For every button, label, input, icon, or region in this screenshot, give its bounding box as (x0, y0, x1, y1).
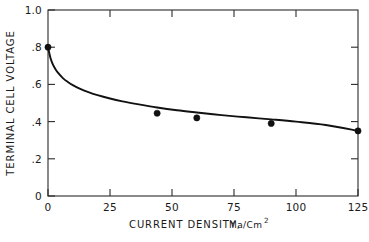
y-tick-label: .8 (32, 41, 42, 53)
x-axis-title: CURRENT DENSITY, Ma/Cm 2 (129, 216, 269, 230)
data-point (154, 110, 160, 116)
plot-frame (48, 10, 358, 196)
data-point (268, 120, 274, 126)
y-tick-label: .2 (32, 153, 42, 165)
x-tick-label: 125 (348, 201, 369, 213)
x-tick-label: 50 (165, 201, 179, 213)
data-point (194, 115, 200, 121)
x-axis-title-unit: Ma/Cm (229, 220, 262, 230)
x-axis-top-ticks (110, 10, 296, 17)
y-tick-label: .4 (32, 116, 43, 128)
y-tick-label: 1.0 (25, 4, 42, 16)
data-curve (48, 47, 358, 131)
y-tick-labels: 1.0 .8 .6 .4 .2 0 (25, 4, 42, 202)
data-point (355, 128, 361, 134)
y-tick-label: .6 (32, 78, 43, 90)
y-tick-label: 0 (35, 190, 42, 202)
x-axis-ticks (48, 189, 358, 196)
y-axis-title: TERMINAL CELL VOLTAGE (5, 30, 16, 176)
chart-figure: 1.0 .8 .6 .4 .2 0 0 25 50 75 100 125 CUR… (0, 0, 369, 242)
x-tick-label: 75 (227, 201, 241, 213)
x-axis-title-superscript: 2 (264, 216, 269, 225)
polarization-curve-chart: 1.0 .8 .6 .4 .2 0 0 25 50 75 100 125 CUR… (0, 0, 369, 242)
x-tick-labels: 0 25 50 75 100 125 (45, 201, 369, 213)
x-axis-title-main: CURRENT DENSITY, (129, 219, 241, 230)
x-tick-label: 25 (103, 201, 117, 213)
data-point (45, 44, 51, 50)
y-axis-right-ticks (351, 47, 358, 159)
x-tick-label: 0 (45, 201, 52, 213)
x-tick-label: 100 (286, 201, 307, 213)
y-axis-ticks (48, 10, 55, 196)
data-point-markers (45, 44, 361, 134)
